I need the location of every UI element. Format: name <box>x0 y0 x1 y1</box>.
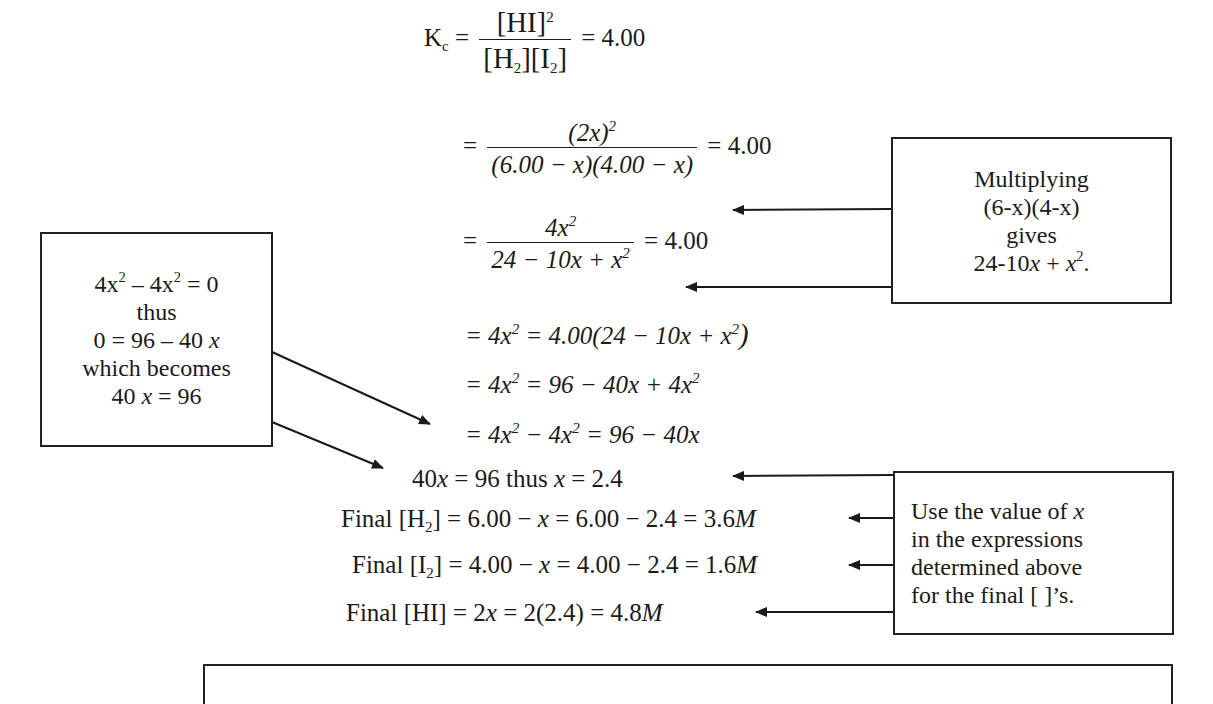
note-cancel-line-5: 40 x = 96 <box>42 382 271 410</box>
step-4-equation: = 4x2 = 96 − 40x + 4x2 <box>465 372 700 397</box>
note-multiplying-line-2: (6-x)(4-x) <box>893 193 1170 221</box>
step-2-equation: = 4x2 24 − 10x + x2 = 4.00 <box>463 215 708 272</box>
step-1-fraction: (2x)2 (6.00 − x)(4.00 − x) <box>487 120 697 177</box>
note-cancel-line-2: thus <box>42 298 271 326</box>
note-cancel-box: 4x2 – 4x2 = 0 thus 0 = 96 – 40 x which b… <box>40 232 273 447</box>
note-use-value-line-4: for the final [ ]’s. <box>911 581 1172 609</box>
note-multiplying-box: Multiplying (6-x)(4-x) gives 24-10x + x2… <box>891 137 1172 304</box>
note-cancel-line-1: 4x2 – 4x2 = 0 <box>42 270 271 298</box>
step-1-equation: = (2x)2 (6.00 − x)(4.00 − x) = 4.00 <box>463 120 771 177</box>
step-2-fraction: 4x2 24 − 10x + x2 <box>487 215 633 272</box>
note-multiplying-line-1: Multiplying <box>893 165 1170 193</box>
kc-symbol: Kc <box>424 24 449 51</box>
final-h2-equation: Final [H2] = 6.00 − x = 6.00 − 2.4 = 3.6… <box>341 506 756 531</box>
final-i2-equation: Final [I2] = 4.00 − x = 4.00 − 2.4 = 1.6… <box>352 552 757 577</box>
arrow-to-solve-x <box>733 475 893 476</box>
note-use-value-box: Use the value of x in the expressions de… <box>893 471 1174 635</box>
note-use-value-line-1: Use the value of x <box>911 497 1172 525</box>
arrow-to-step-1 <box>733 209 891 210</box>
kc-fraction: [HI]2 [H2][I2] <box>479 8 571 73</box>
arrow-to-step-6 <box>272 422 383 468</box>
kc-equation: Kc = [HI]2 [H2][I2] = 4.00 <box>424 8 645 73</box>
note-cancel-line-3: 0 = 96 – 40 x <box>42 326 271 354</box>
note-multiplying-line-4: 24-10x + x2. <box>893 249 1170 277</box>
final-hi-equation: Final [HI] = 2x = 2(2.4) = 4.8M <box>346 600 663 625</box>
note-multiplying-line-3: gives <box>893 221 1170 249</box>
note-cancel-line-4: which becomes <box>42 354 271 382</box>
note-use-value-line-3: determined above <box>911 553 1172 581</box>
step-5-equation: = 4x2 − 4x2 = 96 − 40x <box>465 422 700 447</box>
arrow-to-step-5 <box>272 352 430 424</box>
step-6-solve-x: 40x = 96 thus x = 2.4 <box>412 466 623 491</box>
step-3-equation: = 4x2 = 4.00(24 − 10x + x2) <box>465 320 749 349</box>
note-use-value-line-2: in the expressions <box>911 525 1172 553</box>
bottom-box <box>203 664 1173 704</box>
